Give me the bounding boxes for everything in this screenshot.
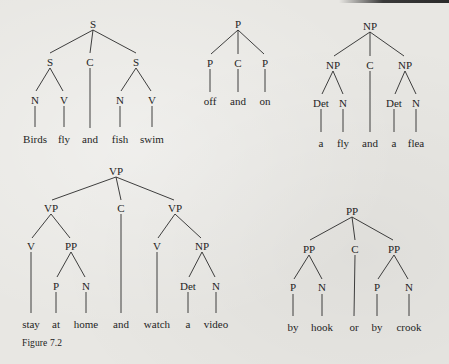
- leaf-word: at: [52, 318, 60, 330]
- node-label: N: [31, 94, 39, 106]
- node-label: P: [374, 281, 380, 293]
- node-label: N: [318, 281, 326, 293]
- leaf-word: swim: [140, 133, 164, 145]
- leaf-word: fly: [58, 133, 71, 145]
- node-label: S: [133, 56, 139, 68]
- node-label: C: [117, 202, 124, 214]
- node-label: PP: [346, 205, 358, 217]
- leaf-word: home: [74, 318, 99, 330]
- node-label: N: [116, 94, 124, 106]
- leaf-word: stay: [22, 318, 40, 330]
- leaf-word: off: [204, 95, 217, 107]
- leaf-word: fly: [337, 137, 350, 149]
- leaf-word: on: [260, 95, 272, 107]
- node-label: NP: [195, 240, 209, 252]
- tree-p-coordination: P P C P off and on: [204, 18, 271, 107]
- leaf-word: hook: [311, 321, 334, 333]
- node-label: P: [235, 18, 241, 30]
- leaf-word: flea: [408, 137, 425, 149]
- syntax-trees-figure: S S C S N V N V Birds fly and fish swim …: [0, 0, 449, 364]
- node-label: S: [90, 18, 96, 30]
- node-label: Det: [386, 97, 402, 109]
- node-label: C: [366, 59, 373, 71]
- leaf-word: Birds: [23, 133, 47, 145]
- node-label: V: [148, 94, 156, 106]
- node-label: V: [27, 240, 35, 252]
- leaf-word: and: [230, 95, 246, 107]
- node-label: N: [405, 281, 413, 293]
- tree-vp-coordination: VP VP C VP V PP V NP P N Det N stay at h…: [22, 165, 229, 330]
- node-label: PP: [65, 240, 77, 252]
- node-label: NP: [398, 59, 412, 71]
- node-label: Det: [313, 97, 329, 109]
- leaf-word: a: [186, 318, 191, 330]
- node-label: V: [60, 94, 68, 106]
- node-label: N: [339, 97, 347, 109]
- leaf-word: watch: [144, 318, 171, 330]
- figure-caption: Figure 7.2: [22, 338, 62, 348]
- node-label: VP: [109, 165, 123, 177]
- node-label: P: [262, 57, 268, 69]
- leaf-word: crook: [396, 321, 422, 333]
- node-label: PP: [303, 243, 315, 255]
- node-label: C: [234, 57, 241, 69]
- node-label: N: [82, 280, 90, 292]
- node-label: NP: [326, 59, 340, 71]
- leaf-word: a: [319, 137, 324, 149]
- node-label: PP: [388, 243, 400, 255]
- leaf-word: and: [82, 133, 98, 145]
- leaf-word: by: [372, 321, 384, 333]
- tree-s-coordination: S S C S N V N V Birds fly and fish swim: [23, 18, 164, 145]
- leaf-word: by: [288, 321, 300, 333]
- leaf-word: and: [362, 137, 378, 149]
- node-label: VP: [44, 202, 58, 214]
- node-label: NP: [363, 20, 377, 32]
- node-label: P: [207, 57, 213, 69]
- tree-np-coordination: NP NP C NP Det N Det N a fly and a flea: [313, 20, 424, 149]
- node-label: Det: [180, 280, 196, 292]
- leaf-word: video: [204, 318, 229, 330]
- node-label: C: [86, 56, 93, 68]
- node-label: C: [351, 243, 358, 255]
- leaf-word: and: [113, 318, 129, 330]
- node-label: VP: [168, 202, 182, 214]
- node-label: P: [53, 280, 59, 292]
- node-label: N: [212, 280, 220, 292]
- leaf-word: a: [392, 137, 397, 149]
- node-label: S: [47, 56, 53, 68]
- figure-page: S S C S N V N V Birds fly and fish swim …: [0, 0, 449, 364]
- node-label: N: [412, 97, 420, 109]
- tree-pp-coordination: PP PP C PP P N P N by hook or by crook: [288, 205, 423, 333]
- leaf-word: fish: [112, 133, 129, 145]
- node-label: V: [153, 240, 161, 252]
- node-label: P: [290, 281, 296, 293]
- leaf-word: or: [349, 321, 359, 333]
